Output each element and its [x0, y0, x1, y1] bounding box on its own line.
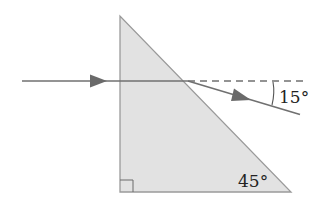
incident-arrowhead-icon	[90, 75, 107, 88]
prism-angle-label: 45°	[238, 173, 268, 190]
deviation-angle-label: 15°	[279, 89, 309, 106]
diagram-canvas	[0, 0, 323, 197]
deviation-angle-arc	[272, 82, 274, 105]
refracted-arrowhead-icon	[231, 89, 251, 102]
prism-refraction-diagram: 15° 45°	[0, 0, 323, 197]
